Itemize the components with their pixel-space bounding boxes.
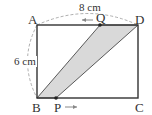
- shaded-region: [37, 25, 138, 98]
- vertex-D: D: [135, 13, 144, 26]
- arrow-left-icon: [82, 18, 93, 22]
- vertex-B: B: [32, 101, 41, 114]
- vertex-C: C: [135, 101, 144, 114]
- arrow-right-icon: [65, 105, 77, 109]
- point-P-label: P: [54, 101, 61, 114]
- left-dimension-label: 6 cm: [13, 56, 37, 67]
- top-dimension-arc: [37, 14, 138, 26]
- point-Q-label: Q: [96, 11, 105, 24]
- vertex-A: A: [28, 13, 37, 26]
